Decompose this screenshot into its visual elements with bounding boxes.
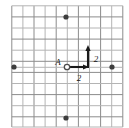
figure-background — [0, 0, 129, 128]
figure-canvas: A 2 2 — [0, 0, 129, 128]
horizontal-magnitude-label: 2 — [77, 73, 82, 83]
dot-bottom — [63, 115, 68, 120]
point-a-marker — [64, 64, 69, 69]
point-a-label: A — [54, 57, 61, 67]
vertical-magnitude-label: 2 — [94, 54, 99, 64]
grid-vector-figure: A 2 2 — [0, 0, 129, 128]
dot-top — [63, 14, 68, 19]
dot-right — [109, 64, 114, 69]
dot-left — [11, 64, 16, 69]
